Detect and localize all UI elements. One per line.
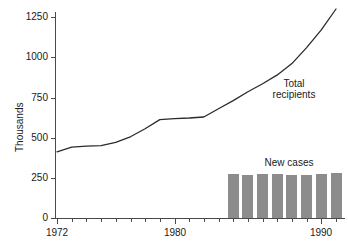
total-recipients-line (0, 0, 348, 248)
new-cases-label: New cases (258, 157, 320, 168)
total-recipients-label-line2: recipients (264, 89, 324, 100)
total-recipients-label-line1: Total (264, 78, 324, 89)
chart-figure: Thousands 1250 1000 750 500 250 0 1972 1… (0, 0, 348, 248)
